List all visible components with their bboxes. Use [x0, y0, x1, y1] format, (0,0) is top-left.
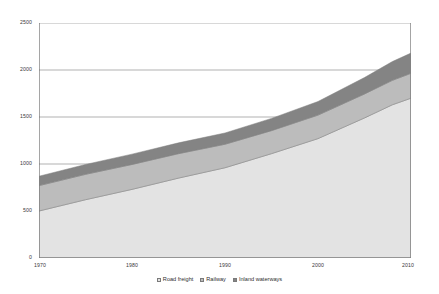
x-axis: 19701980199020002010 [0, 263, 439, 275]
x-axis-tick-label: 1980 [126, 263, 138, 268]
x-axis-tick-label: 2010 [402, 263, 414, 268]
x-axis-tick-label: 2000 [312, 263, 324, 268]
legend-label: Railway [206, 277, 226, 283]
legend-swatch-icon [200, 278, 204, 282]
y-axis-tick-label: 500 [0, 208, 32, 213]
legend-label: Road freight [163, 277, 193, 283]
x-axis-tick-label: 1990 [219, 263, 231, 268]
x-axis-tick-label: 1970 [34, 263, 46, 268]
y-axis: 05001000150020002500 [0, 0, 37, 294]
y-axis-tick-label: 2000 [0, 67, 32, 72]
legend-item[interactable]: Inland waterways [233, 277, 282, 283]
legend-swatch-icon [233, 278, 237, 282]
area-chart: 05001000150020002500 1970198019902000201… [0, 0, 439, 294]
chart-legend: Road freightRailwayInland waterways [0, 277, 439, 283]
y-axis-tick-label: 0 [0, 255, 32, 260]
y-axis-tick-label: 2500 [0, 20, 32, 25]
y-axis-tick-label: 1000 [0, 161, 32, 166]
plot-svg [39, 23, 411, 258]
y-axis-tick-label: 1500 [0, 114, 32, 119]
legend-label: Inland waterways [239, 277, 282, 283]
plot-area [39, 23, 411, 258]
legend-item[interactable]: Railway [200, 277, 226, 283]
legend-swatch-icon [157, 278, 161, 282]
legend-item[interactable]: Road freight [157, 277, 193, 283]
